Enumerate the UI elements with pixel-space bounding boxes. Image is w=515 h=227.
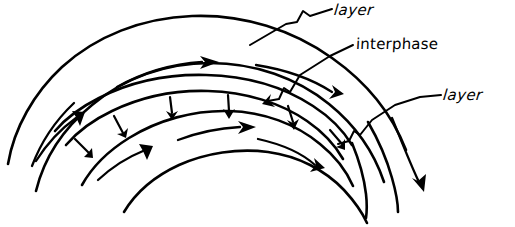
- diagram-canvas: layer interphase layer: [0, 0, 515, 227]
- label-layer-right: layer: [442, 86, 484, 104]
- label-interphase: interphase: [356, 35, 439, 53]
- flow-arrow-inner-center: [178, 121, 256, 140]
- crossing-arrow-5: [287, 106, 299, 130]
- flow-arrow-inner-right: [258, 139, 325, 172]
- flow-arrow-outer-upper: [117, 56, 219, 87]
- crossing-arrow-4: [223, 95, 235, 119]
- flow-arrow-inner-lowerleft: [98, 144, 153, 180]
- crossing-arrow-2: [114, 116, 128, 138]
- flow-arrow-bottom-right: [392, 118, 426, 192]
- crossing-arrow-1: [75, 139, 93, 158]
- interphase-band-lower-edge: [66, 91, 343, 159]
- arc-inner-layer-outer-boundary: [82, 111, 353, 186]
- leader-layer-top: [250, 9, 332, 45]
- label-layer-top: layer: [333, 1, 375, 19]
- arc-innermost: [124, 151, 367, 223]
- leader-interphase: [262, 45, 353, 107]
- flow-arrow-outer-right: [256, 65, 344, 99]
- arc-outer-layer-inner-boundary: [36, 63, 384, 191]
